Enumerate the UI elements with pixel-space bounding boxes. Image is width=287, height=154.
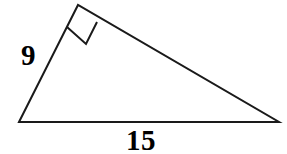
side-label-base: 15 xyxy=(126,126,156,154)
triangle-figure: 9 15 xyxy=(0,0,287,154)
side-label-leg: 9 xyxy=(21,41,36,70)
